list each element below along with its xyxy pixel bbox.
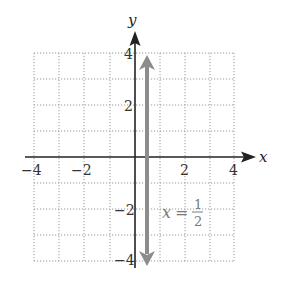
line-x-equals-half xyxy=(139,55,155,266)
x-tick-label: 2 xyxy=(180,162,189,178)
y-tick-label: −4 xyxy=(114,252,135,268)
y-tick-label: 4 xyxy=(124,46,133,62)
y-tick-label: 2 xyxy=(124,98,133,114)
x-tick-label: 4 xyxy=(229,162,238,178)
x-axis xyxy=(25,152,256,163)
equation-annotation: x = 1 2 xyxy=(162,197,203,229)
equation-denominator: 2 xyxy=(194,214,202,229)
equation-numerator: 1 xyxy=(194,197,202,212)
graph: y x −4 −2 2 4 4 2 −2 −4 x = 1 2 xyxy=(0,0,281,281)
x-tick-label: −2 xyxy=(71,162,92,178)
x-axis-label: x xyxy=(259,148,268,166)
y-axis xyxy=(130,31,141,268)
equation-equals: = xyxy=(175,203,188,222)
equation-variable: x xyxy=(162,203,171,222)
x-tick-label: −4 xyxy=(21,162,42,178)
y-tick-label: −2 xyxy=(114,202,135,218)
y-axis-label: y xyxy=(127,11,137,29)
